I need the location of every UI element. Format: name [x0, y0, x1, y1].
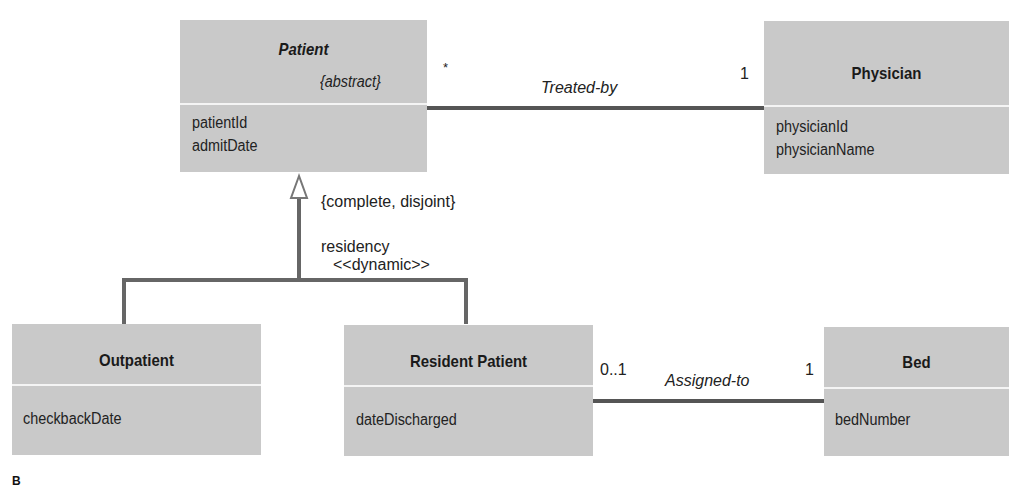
assigned-to-label: Assigned-to	[665, 372, 750, 390]
attribute: physicianName	[776, 138, 874, 161]
attribute: dateDischarged	[356, 408, 457, 431]
class-resident-patient[interactable]: Resident Patient dateDischarged	[344, 325, 593, 456]
attribute: admitDate	[192, 134, 258, 157]
attribute: checkbackDate	[23, 407, 121, 430]
class-outpatient[interactable]: Outpatient checkbackDate	[12, 324, 261, 455]
class-header: Outpatient	[12, 324, 261, 386]
generalization-constraint: {complete, disjoint}	[321, 193, 455, 211]
attribute-list: bedNumber	[835, 408, 919, 431]
attribute: bedNumber	[835, 408, 910, 431]
class-header: Resident Patient	[344, 325, 593, 387]
attribute-list: physicianId physicianName	[776, 115, 885, 161]
treated-by-multiplicity-physician: 1	[740, 65, 749, 83]
class-patient[interactable]: Patient {abstract} patientId admitDate	[180, 20, 427, 172]
attribute-list: dateDischarged	[356, 408, 468, 431]
attribute-list: patientId admitDate	[192, 111, 265, 157]
assigned-to-multiplicity-resident: 0..1	[600, 361, 627, 379]
class-physician[interactable]: Physician physicianId physicianName	[764, 21, 1009, 174]
attribute-list: checkbackDate	[23, 407, 132, 430]
class-header: Bed	[824, 327, 1009, 389]
class-name: Bed	[835, 353, 998, 373]
class-name: Resident Patient	[359, 352, 578, 372]
figure-label: B	[12, 474, 21, 488]
assigned-to-multiplicity-bed: 1	[805, 361, 814, 379]
class-header: Patient {abstract}	[180, 20, 427, 105]
treated-by-label: Treated-by	[541, 79, 617, 97]
abstract-constraint: {abstract}	[320, 73, 381, 91]
class-bed[interactable]: Bed bedNumber	[824, 327, 1009, 456]
attribute: patientId	[192, 111, 258, 134]
treated-by-multiplicity-patient: *	[443, 60, 448, 75]
class-header: Physician	[764, 21, 1009, 107]
generalization-arrowhead-icon	[291, 176, 307, 198]
class-name: Outpatient	[27, 351, 246, 371]
generalization-stereotype: <<dynamic>>	[333, 256, 430, 274]
attribute: physicianId	[776, 115, 874, 138]
generalization-discriminator: residency	[321, 238, 389, 256]
class-name: Physician	[779, 64, 995, 84]
class-name: Patient	[195, 40, 412, 60]
